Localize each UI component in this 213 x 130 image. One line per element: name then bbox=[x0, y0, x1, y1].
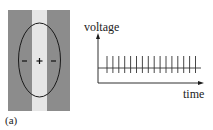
y-axis-label: voltage bbox=[84, 20, 119, 35]
panel-label: (a) bbox=[5, 114, 17, 126]
receptive-field-panel bbox=[8, 10, 70, 111]
x-axis-arrowhead bbox=[198, 81, 204, 85]
spikes bbox=[107, 56, 196, 73]
spike-train-plot bbox=[96, 33, 204, 85]
x-axis-label: time bbox=[183, 87, 204, 102]
